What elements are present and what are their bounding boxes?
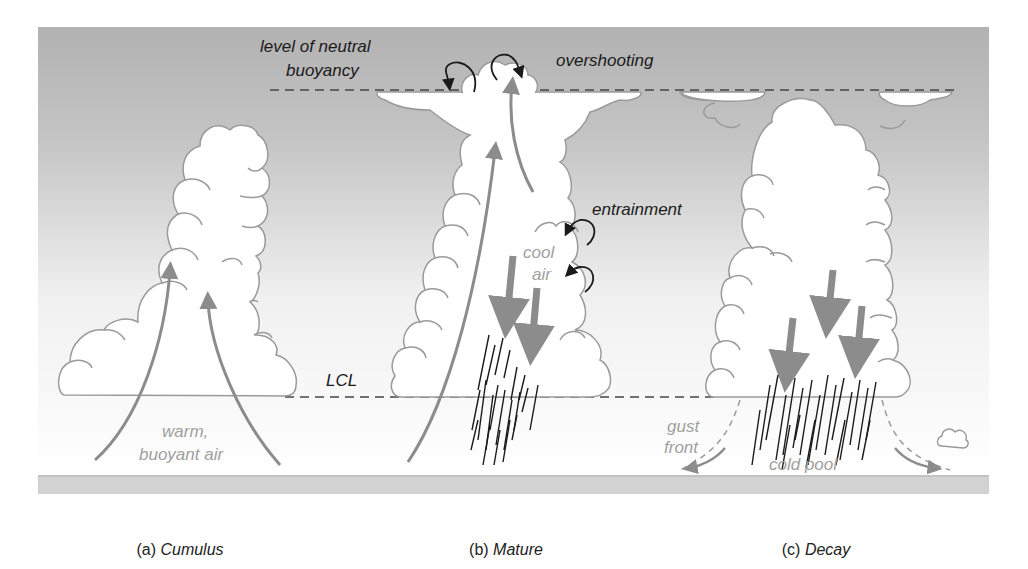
buoyant-air-label: buoyant air: [139, 445, 224, 464]
gust-label: gust: [667, 417, 700, 436]
ground-strip: [38, 475, 989, 494]
caption-cumulus-prefix: (a): [136, 541, 156, 558]
lnb-label-line2: buoyancy: [286, 61, 360, 80]
thunderstorm-lifecycle-diagram: level of neutral buoyancy overshooting e…: [0, 0, 1028, 569]
decay-downdraft-2: [828, 270, 833, 318]
caption-cumulus: (a) Cumulus: [136, 541, 223, 559]
caption-decay-name: Decay: [805, 541, 850, 558]
caption-decay: (c) Decay: [782, 541, 850, 559]
decay-downdraft-3: [857, 306, 862, 358]
overshooting-label: overshooting: [556, 51, 654, 70]
lnb-label-line1: level of neutral: [260, 37, 372, 56]
warm-label: warm,: [162, 422, 208, 441]
caption-mature-name: Mature: [493, 541, 543, 558]
caption-decay-prefix: (c): [782, 541, 801, 558]
front-label: front: [664, 438, 699, 457]
lcl-label: LCL: [326, 371, 357, 390]
caption-mature: (b) Mature: [469, 541, 543, 559]
caption-cumulus-name: Cumulus: [160, 541, 223, 558]
caption-mature-prefix: (b): [469, 541, 489, 558]
entrainment-label: entrainment: [592, 200, 683, 219]
cold-pool-label: cold pool: [769, 455, 838, 474]
air-label: air: [532, 265, 552, 284]
cool-label: cool: [523, 243, 555, 262]
downdraft-arrow-2: [532, 288, 537, 345]
